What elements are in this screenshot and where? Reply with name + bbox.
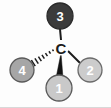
bond-to-2	[68, 51, 80, 63]
stereocenter-figure: 1234C	[0, 0, 111, 108]
center-atom: C	[54, 40, 69, 57]
substituent-node-4[interactable]: 4	[10, 58, 34, 82]
hash-mark	[38, 57, 41, 61]
hash-mark	[49, 51, 51, 53]
substituent-node-3[interactable]: 3	[47, 3, 73, 29]
hash-mark	[45, 53, 47, 56]
hash-mark	[35, 58, 38, 63]
substituent-node-2[interactable]: 2	[78, 58, 102, 82]
bond-to-1	[56, 53, 63, 78]
substituent-node-1[interactable]: 1	[46, 75, 72, 101]
bond-to-4	[31, 49, 53, 66]
substituent-label-4: 4	[18, 63, 26, 78]
bond-to-3	[60, 29, 61, 40]
stereocenter-canvas: 1234C	[0, 0, 111, 108]
hash-mark	[53, 49, 54, 51]
substituent-label-3: 3	[56, 9, 63, 24]
substituent-label-2: 2	[86, 63, 93, 78]
center-atom-label: C	[56, 40, 67, 57]
bottom-divider	[0, 107, 111, 108]
hash-mark	[42, 55, 44, 59]
substituent-label-1: 1	[55, 81, 62, 96]
substituent-layer: 1234C	[10, 3, 102, 101]
